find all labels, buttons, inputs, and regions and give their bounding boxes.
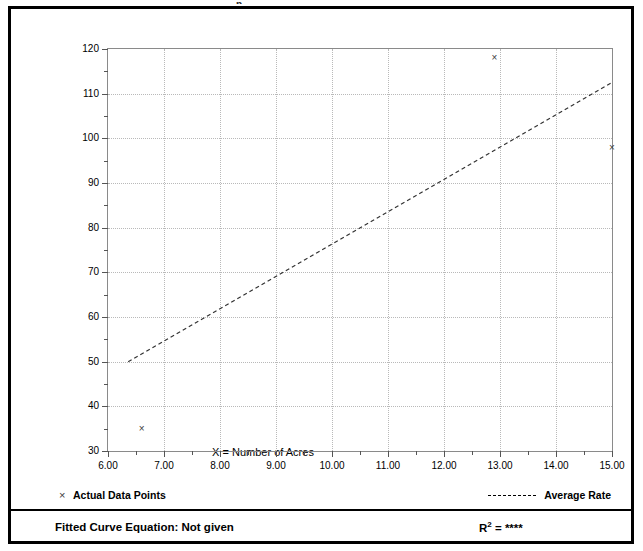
y-tick-label: 50: [59, 357, 99, 367]
data-point-marker: ×: [137, 424, 146, 433]
y-tick-label: 120: [59, 44, 99, 54]
x-tick-minor: [360, 451, 361, 455]
x-tick-minor: [584, 451, 585, 455]
x-tick: [164, 451, 165, 457]
x-tick-label: 7.00: [142, 461, 186, 471]
x-tick: [220, 451, 221, 457]
footer: Fitted Curve Equation: Not given R2 = **…: [11, 509, 631, 543]
x-tick-minor: [528, 451, 529, 455]
data-point-marker: ×: [490, 53, 499, 62]
dashed-line-icon: [488, 495, 536, 496]
x-tick-minor: [472, 451, 473, 455]
x-marker-icon: ×: [59, 489, 73, 501]
data-point-marker: ×: [608, 143, 617, 152]
legend-item-actual-data-points: ×Actual Data Points: [59, 489, 166, 501]
clipped-top-text: p: [236, 0, 296, 4]
r-squared-number: = ****: [495, 522, 523, 534]
x-tick-label: 14.00: [534, 461, 578, 471]
y-tick-label: 110: [59, 89, 99, 99]
x-tick-label: 12.00: [422, 461, 466, 471]
x-tick: [388, 451, 389, 457]
x-tick: [332, 451, 333, 457]
x-tick-label: 13.00: [478, 461, 522, 471]
x-tick: [612, 451, 613, 457]
x-tick-minor: [136, 451, 137, 455]
y-tick-label: 60: [59, 312, 99, 322]
average-rate-trendline: [108, 49, 612, 451]
x-tick-minor: [192, 451, 193, 455]
y-tick: [102, 451, 108, 452]
chart-page: p T = Average Vehicle Trip Ends X = Numb…: [0, 0, 643, 551]
legend-label-average-rate: Average Rate: [544, 489, 611, 501]
trendline-segment: [128, 83, 612, 362]
x-tick-minor: [416, 451, 417, 455]
fitted-curve-equation: Fitted Curve Equation: Not given: [55, 521, 234, 533]
r-squared-exponent: 2: [487, 520, 491, 529]
r-squared-value: R2 = ****: [479, 520, 523, 534]
legend-label-actual-data-points: Actual Data Points: [73, 489, 166, 501]
y-tick-label: 70: [59, 267, 99, 277]
x-tick-label: 6.00: [86, 461, 130, 471]
x-tick: [444, 451, 445, 457]
x-tick-label: 15.00: [590, 461, 634, 471]
legend-item-average-rate: Average Rate: [488, 489, 611, 501]
y-tick-label: 30: [59, 446, 99, 456]
x-tick-label: 9.00: [254, 461, 298, 471]
plot-region: 30405060708090100110120 6.007.008.009.00…: [107, 48, 613, 452]
figure-frame: T = Average Vehicle Trip Ends X = Number…: [8, 6, 634, 544]
y-tick-label: 40: [59, 401, 99, 411]
y-tick-label: 90: [59, 178, 99, 188]
x-tick-label: 11.00: [366, 461, 410, 471]
x-tick-minor: [304, 451, 305, 455]
x-tick: [108, 451, 109, 457]
y-tick-label: 80: [59, 223, 99, 233]
chart-area: T = Average Vehicle Trip Ends X = Number…: [11, 9, 631, 479]
x-tick-label: 10.00: [310, 461, 354, 471]
legend: ×Actual Data Points Average Rate: [11, 481, 631, 511]
x-tick: [500, 451, 501, 457]
y-tick-label: 100: [59, 133, 99, 143]
x-tick: [276, 451, 277, 457]
x-tick-label: 8.00: [198, 461, 242, 471]
x-tick: [556, 451, 557, 457]
x-tick-minor: [248, 451, 249, 455]
